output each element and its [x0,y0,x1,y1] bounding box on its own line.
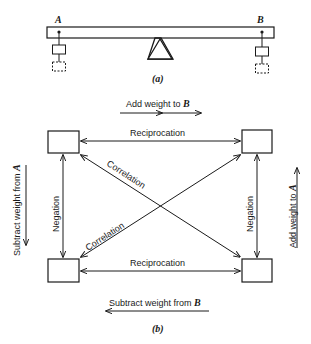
label-correlation-lower: Correlation [84,220,126,252]
label-negation-right: Negation [245,196,255,232]
caption-b: (b) [152,323,164,335]
state-box-bottom-left [48,259,79,282]
panel-a: A B (a) [47,14,274,85]
caption-a: (a) [152,73,164,85]
panel-b: Add weight to B Reciprocation Reciprocat… [11,98,298,335]
weight-b-dashed [256,64,269,73]
label-negation-left: Negation [51,196,61,232]
weight-b [256,47,269,56]
weight-a-dashed [53,62,66,71]
label-subtract-weight-b: Subtract weight from B [109,297,201,308]
state-box-bottom-right [242,259,272,282]
label-b: B [256,14,264,25]
balance-beam [47,27,274,38]
label-subtract-weight-a: Subtract weight from A [11,164,22,256]
label-a: A [54,14,62,25]
weight-a [53,45,66,54]
label-reciprocation-top: Reciprocation [130,128,185,138]
state-box-top-right [242,130,272,153]
state-box-top-left [48,131,79,153]
label-reciprocation-bottom: Reciprocation [130,258,185,268]
label-add-weight-a: Add weight to A [287,184,298,248]
label-add-weight-b: Add weight to B [126,98,190,109]
balance-diagram: A B (a) Add weight to B Reciprocation Re… [0,0,311,344]
